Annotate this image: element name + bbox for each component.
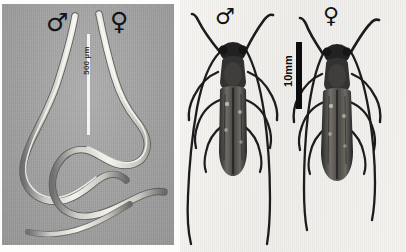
- scale-bar-label-beetle: 10mm: [282, 55, 294, 87]
- beetle-male: [188, 14, 278, 244]
- beetle-female: [294, 18, 381, 230]
- female-symbol-beetle: ♀: [323, 5, 339, 27]
- male-symbol-nematode: ♂: [46, 10, 68, 35]
- beetle-specimens-image: [180, 0, 406, 252]
- scale-bar-beetle: [296, 42, 302, 109]
- figure-container: ♂ ♀ 500 µm: [0, 0, 406, 252]
- male-symbol-beetle: ♂: [215, 6, 235, 28]
- scale-bar-label-nematode: 500 µm: [82, 46, 91, 75]
- female-symbol-nematode: ♀: [110, 9, 128, 34]
- panel-beetle-photograph: ♂ ♀ 10mm: [180, 0, 406, 252]
- nematode-male: [23, 16, 126, 202]
- panel-nematode-micrograph: ♂ ♀ 500 µm: [2, 4, 174, 245]
